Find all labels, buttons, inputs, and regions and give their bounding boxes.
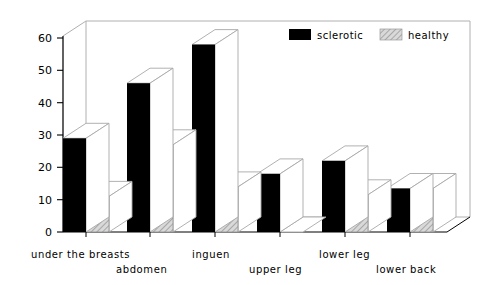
cat-label-lower-back: lower back	[376, 264, 436, 275]
bar-inguen-sclerotic	[192, 30, 238, 232]
legend-entry-sclerotic: sclerotic	[289, 29, 363, 41]
bar-lower-leg-sclerotic	[322, 146, 368, 232]
y-tick-label-30: 30	[38, 129, 52, 142]
legend-label-sclerotic: sclerotic	[317, 30, 363, 41]
y-tick-label-60: 60	[38, 32, 52, 45]
y-tick-label-40: 40	[38, 97, 52, 110]
chart-canvas: 0 10 20 30 40 50 60	[0, 0, 478, 285]
bar-abdomen-sclerotic	[127, 68, 173, 232]
y-tick-label-50: 50	[38, 64, 52, 77]
y-tick-label-20: 20	[38, 161, 52, 174]
legend-swatch-sclerotic	[289, 29, 311, 40]
legend-entry-healthy: healthy	[380, 29, 449, 41]
legend-swatch-healthy	[380, 29, 402, 40]
legend-label-healthy: healthy	[408, 30, 449, 41]
bar-group-lower-back	[387, 174, 456, 233]
bar-upper-leg-sclerotic	[257, 159, 303, 232]
bar-chart: 0 10 20 30 40 50 60	[0, 0, 478, 285]
y-tick-label-10: 10	[38, 194, 52, 207]
cat-label-upper-leg: upper leg	[249, 264, 302, 275]
cat-label-lower-leg: lower leg	[319, 249, 370, 260]
cat-label-abdomen: abdomen	[116, 264, 167, 275]
bar-under-the-breasts-sclerotic	[63, 123, 109, 232]
cat-label-under-the-breasts: under the breasts	[31, 249, 130, 260]
cat-label-inguen: inguen	[192, 249, 230, 260]
y-tick-label-0: 0	[45, 226, 52, 239]
